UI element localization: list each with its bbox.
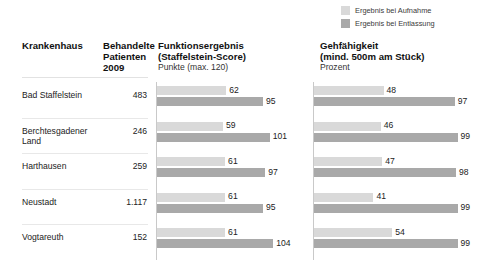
chart-walk-row: 4199	[313, 189, 487, 225]
bar-aufnahme	[157, 86, 226, 95]
cell-patient-count: 246	[103, 126, 147, 137]
bar-value-entlassung: 98	[459, 168, 469, 177]
bar-entlassung	[157, 133, 270, 142]
chart-walk-row: 4798	[313, 153, 487, 189]
chart-legend: Ergebnis bei Aufnahme Ergebnis bei Entla…	[341, 5, 487, 31]
cell-hospital-name: Harthausen	[22, 161, 100, 172]
column-header-walk-unit: Prozent	[320, 62, 485, 73]
bar-value-entlassung: 97	[268, 168, 278, 177]
column-header-score-line1: Funktionsergebnis	[158, 40, 303, 51]
bar-entlassung	[157, 204, 263, 213]
column-header-score-line2: (Staffelstein-Score)	[158, 51, 303, 62]
bar-value-entlassung: 97	[458, 97, 468, 106]
cell-hospital-name: Vogtareuth	[22, 232, 100, 243]
cell-patient-count: 483	[103, 90, 147, 101]
bar-aufnahme	[157, 228, 225, 237]
legend-label-entlassung: Ergebnis bei Entlassung	[355, 19, 435, 28]
legend-swatch-aufnahme	[341, 6, 350, 15]
chart-walk-row: 4699	[313, 118, 487, 154]
cell-patient-count: 259	[103, 161, 147, 172]
row-divider	[22, 118, 148, 119]
legend-item-aufnahme: Ergebnis bei Aufnahme	[341, 5, 487, 16]
bar-aufnahme	[314, 86, 384, 95]
bar-aufnahme	[314, 157, 382, 166]
cell-hospital-name: Neustadt	[22, 197, 100, 208]
chart-score-row: 61104	[156, 224, 304, 260]
bar-value-aufnahme: 41	[376, 192, 386, 201]
row-divider	[22, 82, 148, 83]
chart-score-row: 6195	[156, 189, 304, 225]
column-header-walk: Gehfähigkeit (mind. 500m am Stück) Proze…	[320, 40, 485, 74]
bar-entlassung	[314, 239, 458, 248]
cell-hospital-name: Berchtesgadener Land	[22, 126, 100, 147]
bar-aufnahme	[157, 193, 225, 202]
bar-value-aufnahme: 61	[228, 192, 238, 201]
column-header-hospital: Krankenhaus	[22, 40, 100, 51]
bar-aufnahme	[157, 157, 225, 166]
legend-swatch-entlassung	[341, 19, 350, 28]
bar-value-aufnahme: 46	[384, 121, 394, 130]
row-divider	[22, 189, 148, 190]
table-row: Harthausen25961974798	[0, 153, 487, 189]
cell-patient-count: 152	[103, 232, 147, 243]
bar-entlassung	[314, 133, 458, 142]
bar-value-aufnahme: 61	[228, 228, 238, 237]
bar-value-entlassung: 104	[276, 239, 290, 248]
table-row: Neustadt1.11761954199	[0, 189, 487, 225]
column-header-patients-line2: Patienten	[103, 51, 153, 62]
bar-entlassung	[157, 97, 263, 106]
bar-entlassung	[314, 168, 456, 177]
comparison-table-sheet: Ergebnis bei Aufnahme Ergebnis bei Entla…	[0, 0, 487, 260]
table-row: Berchtesgadener Land246591014699	[0, 118, 487, 154]
cell-hospital-name: Bad Staffelstein	[22, 90, 100, 101]
bar-value-aufnahme: 59	[226, 121, 236, 130]
bar-value-entlassung: 95	[266, 203, 276, 212]
bar-entlassung	[314, 97, 455, 106]
chart-score-row: 59101	[156, 118, 304, 154]
bar-entlassung	[157, 239, 273, 248]
bar-value-entlassung: 99	[461, 239, 471, 248]
bar-value-aufnahme: 47	[385, 157, 395, 166]
chart-score-row: 6197	[156, 153, 304, 189]
table-row: Bad Staffelstein48362954897	[0, 82, 487, 118]
table-row: Vogtareuth152611045499	[0, 224, 487, 260]
bar-value-aufnahme: 62	[229, 86, 239, 95]
bar-value-entlassung: 99	[461, 132, 471, 141]
bar-aufnahme	[314, 193, 373, 202]
table-body: Bad Staffelstein48362954897Berchtesgaden…	[0, 82, 487, 260]
bar-value-entlassung: 95	[266, 97, 276, 106]
cell-patient-count: 1.117	[103, 197, 147, 208]
legend-label-aufnahme: Ergebnis bei Aufnahme	[355, 6, 431, 15]
bar-aufnahme	[314, 122, 381, 131]
bar-value-entlassung: 101	[273, 132, 287, 141]
bar-value-entlassung: 99	[461, 203, 471, 212]
row-divider	[22, 153, 148, 154]
bar-aufnahme	[314, 228, 392, 237]
bar-value-aufnahme: 54	[395, 228, 405, 237]
bar-aufnahme	[157, 122, 223, 131]
column-header-walk-line2: (mind. 500m am Stück)	[320, 51, 485, 62]
chart-walk-row: 4897	[313, 82, 487, 118]
bar-entlassung	[314, 204, 458, 213]
column-header-patients: Behandelte Patienten 2009	[103, 40, 153, 74]
chart-walk-row: 5499	[313, 224, 487, 260]
row-divider	[22, 224, 148, 225]
chart-score-row: 6295	[156, 82, 304, 118]
bar-entlassung	[157, 168, 265, 177]
legend-item-entlassung: Ergebnis bei Entlassung	[341, 18, 487, 29]
header-divider	[22, 77, 148, 78]
bar-value-aufnahme: 61	[228, 157, 238, 166]
column-header-score: Funktionsergebnis (Staffelstein-Score) P…	[158, 40, 303, 74]
column-header-patients-year: 2009	[103, 62, 153, 73]
column-header-score-unit: Punkte (max. 120)	[158, 62, 303, 73]
column-header-patients-line1: Behandelte	[103, 40, 153, 51]
column-header-walk-line1: Gehfähigkeit	[320, 40, 485, 51]
table-header: Krankenhaus Behandelte Patienten 2009 Fu…	[0, 40, 487, 78]
bar-value-aufnahme: 48	[387, 86, 397, 95]
